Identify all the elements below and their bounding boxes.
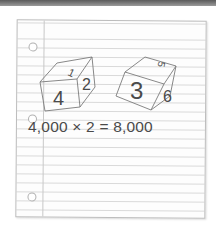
die-right-front-face: 3 <box>130 77 143 104</box>
die-right-top-face: 5 <box>156 61 168 69</box>
die-left-side-face: 2 <box>82 76 91 93</box>
die-left-top-face: 1 <box>66 66 77 79</box>
die-right-side-face: 6 <box>163 88 172 105</box>
die-left-front-face: 4 <box>53 87 64 109</box>
dice-drawing: 1 4 2 5 3 6 <box>0 0 216 227</box>
equation-text: 4,000 × 2 = 8,000 <box>28 118 198 136</box>
